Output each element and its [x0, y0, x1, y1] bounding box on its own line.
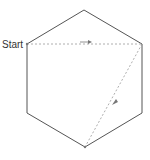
down-left-arrow-icon	[112, 99, 118, 105]
hexagon-diagram: Start	[0, 0, 150, 160]
end-point	[84, 146, 86, 148]
start-label: Start	[2, 39, 23, 50]
dashed-path-diagonal	[85, 44, 142, 147]
start-point	[26, 43, 28, 45]
right-arrow-icon	[80, 40, 92, 44]
hexagon-outline	[27, 10, 142, 147]
